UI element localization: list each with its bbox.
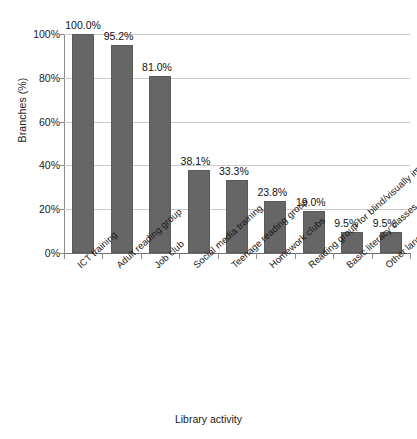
- y-axis-tick-label: 60%: [14, 116, 60, 128]
- x-axis-tick-mark: [410, 253, 411, 259]
- bar: [188, 170, 210, 253]
- x-axis-tick-mark: [179, 253, 180, 259]
- bar-data-label: 81.0%: [142, 61, 172, 73]
- bar-data-label: 95.2%: [104, 30, 134, 42]
- bar-data-label: 23.8%: [257, 186, 287, 198]
- x-axis-tick-mark: [64, 253, 65, 259]
- x-axis-tick-mark: [141, 253, 142, 259]
- x-axis-tick-mark: [372, 253, 373, 259]
- y-axis-tick-label: 40%: [14, 159, 60, 171]
- x-axis-tick-mark: [218, 253, 219, 259]
- y-axis-tick-label: 20%: [14, 203, 60, 215]
- bar-chart: Branches (%) 0%20%40%60%80%100% 100.0%95…: [0, 0, 417, 439]
- x-axis-tick-mark: [256, 253, 257, 259]
- x-axis-tick-mark: [102, 253, 103, 259]
- y-axis-tick-label: 100%: [14, 28, 60, 40]
- x-axis-title: Library activity: [0, 413, 417, 425]
- y-axis-tick-label: 80%: [14, 72, 60, 84]
- x-axis-tick-mark: [295, 253, 296, 259]
- bar-data-label: 38.1%: [181, 155, 211, 167]
- y-axis-tick-label: 0%: [14, 247, 60, 259]
- bar-data-label: 33.3%: [219, 165, 249, 177]
- bar: [111, 45, 133, 253]
- bar: [72, 34, 94, 253]
- x-axis-tick-mark: [333, 253, 334, 259]
- bar-data-label: 100.0%: [65, 19, 101, 31]
